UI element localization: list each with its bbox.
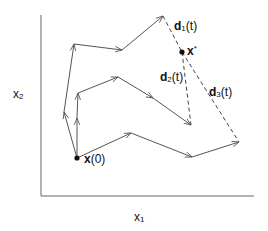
x-axis-label: x1: [134, 211, 144, 223]
distance-line-d2: [182, 52, 191, 125]
optimum-point-label: x*: [187, 45, 197, 57]
distance-label-d1: d1(t): [174, 20, 197, 32]
start-point-label: x(0): [84, 153, 105, 165]
y-axis-label: x2: [13, 88, 23, 100]
start-point-dot: [74, 155, 79, 160]
trajectory-path-2: [77, 77, 191, 158]
optimum-point-dot: [179, 49, 184, 54]
diagram-svg: [0, 0, 268, 231]
distance-label-d3: d3(t): [209, 86, 232, 98]
distance-label-d2: d2(t): [160, 71, 183, 83]
diagram-canvas: x2 x1 x(0) x* d1(t) d2(t) d3(t): [0, 0, 268, 231]
trajectory-path-1: [64, 16, 163, 158]
